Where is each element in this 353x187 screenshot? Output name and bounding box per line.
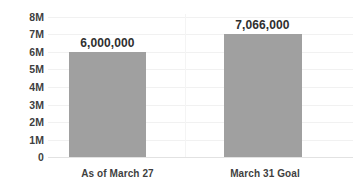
y-axis-tick-3m: 3M bbox=[0, 100, 44, 111]
y-axis-tick-7m: 7M bbox=[0, 29, 44, 40]
x-axis-label-as-of-march-27: As of March 27 bbox=[50, 168, 185, 179]
bar-march-31-goal bbox=[224, 34, 302, 157]
value-label-as-of-march-27: 6,000,000 bbox=[55, 36, 160, 50]
y-axis-tick-8m: 8M bbox=[0, 12, 44, 23]
y-axis-tick-2m: 2M bbox=[0, 117, 44, 128]
gridline-zero-baseline bbox=[48, 157, 353, 158]
y-axis-tick-5m: 5M bbox=[0, 64, 44, 75]
y-axis-tick-4m: 4M bbox=[0, 82, 44, 93]
y-axis-tick-6m: 6M bbox=[0, 47, 44, 58]
bar-as-of-march-27 bbox=[69, 52, 146, 157]
y-axis-tick-0: 0 bbox=[0, 152, 44, 163]
gridline-7m bbox=[48, 34, 353, 35]
value-label-march-31-goal: 7,066,000 bbox=[210, 18, 315, 32]
category-separator bbox=[185, 14, 186, 157]
y-axis-tick-1m: 1M bbox=[0, 135, 44, 146]
bar-chart: 8M 7M 6M 5M 4M 3M 2M 1M 0 6,000,000 7,06… bbox=[0, 0, 353, 187]
x-axis-label-march-31-goal: March 31 Goal bbox=[190, 168, 340, 179]
